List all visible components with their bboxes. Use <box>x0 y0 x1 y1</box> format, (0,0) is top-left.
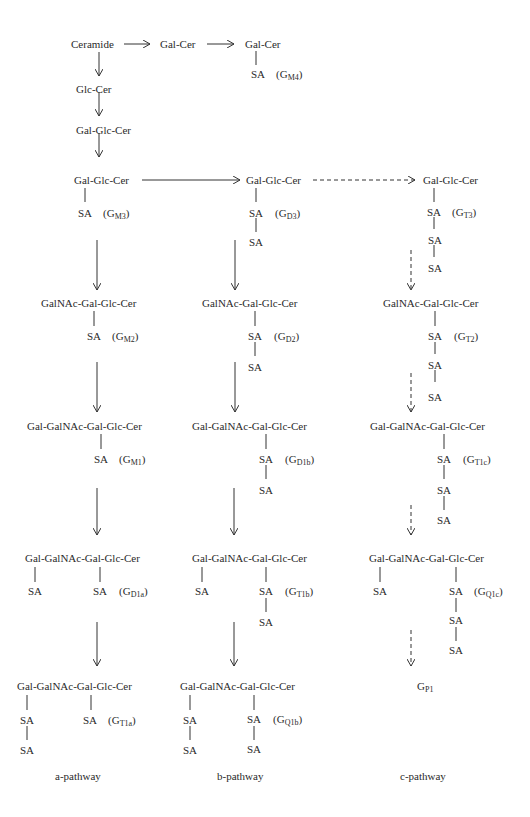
node-gq1c-sa1: SA <box>449 585 463 598</box>
node-gt1c-sa1: SA <box>437 453 451 466</box>
node-gm3-chain: Gal-Glc-Cer <box>74 174 129 187</box>
label-gt1b: (GT1b) <box>285 585 313 598</box>
node-galcer: Gal-Cer <box>160 38 195 51</box>
node-gm2-chain: GalNAc-Gal-Glc-Cer <box>41 297 136 310</box>
node-ceramide: Ceramide <box>71 38 114 51</box>
node-gt1a-sa: SA <box>83 714 97 727</box>
node-gq1c-sa3: SA <box>449 644 463 657</box>
node-gt1a-sa-left1: SA <box>20 714 34 727</box>
label-gd3: (GD3) <box>275 207 300 220</box>
node-gt1b-sa2: SA <box>259 616 273 629</box>
node-gd1a-sa: SA <box>93 585 107 598</box>
pathway-label-a: a-pathway <box>55 770 101 783</box>
node-gt1a-chain: Gal-GalNAc-Gal-Glc-Cer <box>17 680 132 693</box>
label-gt1c: (GT1c) <box>463 453 491 466</box>
node-gq1b-chain: Gal-GalNAc-Gal-Glc-Cer <box>180 680 295 693</box>
label-gd1a: (GD1a) <box>119 585 148 598</box>
node-gq1b-sa-left2: SA <box>183 744 197 757</box>
connector-layer <box>0 0 530 817</box>
node-gt1c-sa3: SA <box>437 514 451 527</box>
label-gq1b: (GQ1b) <box>273 713 302 726</box>
node-gm4-sa: SA <box>251 68 265 81</box>
node-gt1a-sa-left2: SA <box>20 744 34 757</box>
node-gt3-sa1: SA <box>427 206 441 219</box>
node-gd2-chain: GalNAc-Gal-Glc-Cer <box>202 297 297 310</box>
node-gt1b-chain: Gal-GalNAc-Gal-Glc-Cer <box>192 552 307 565</box>
node-galcer-gm4: Gal-Cer <box>245 38 280 51</box>
node-gd3-chain: Gal-Glc-Cer <box>246 174 301 187</box>
node-gt3-sa3: SA <box>428 262 442 275</box>
node-gd1b-sa2: SA <box>259 484 273 497</box>
label-gt1a: (GT1a) <box>108 714 136 727</box>
node-lactosylceramide: Gal-Glc-Cer <box>76 124 131 137</box>
node-gq1b-sa-left1: SA <box>183 714 197 727</box>
node-gd3-sa1: SA <box>249 207 263 220</box>
label-gm2: (GM2) <box>112 330 138 343</box>
node-gq1c-sa-left: SA <box>373 585 387 598</box>
label-gd1b: (GD1b) <box>285 453 314 466</box>
node-glccer: Glc-Cer <box>76 83 111 96</box>
node-gd3-sa2: SA <box>249 236 263 249</box>
node-gm1-chain: Gal-GalNAc-Gal-Glc-Cer <box>27 420 142 433</box>
node-gt2-sa3: SA <box>428 391 442 404</box>
node-gt3-sa2: SA <box>428 234 442 247</box>
node-gd2-sa2: SA <box>248 361 262 374</box>
label-gt2: (GT2) <box>454 330 478 343</box>
node-gd1a-sa-left: SA <box>28 585 42 598</box>
label-gm3: (GM3) <box>103 207 129 220</box>
node-gt3-chain: Gal-Glc-Cer <box>423 174 478 187</box>
node-gd2-sa1: SA <box>248 330 262 343</box>
node-gq1c-chain: Gal-GalNAc-Gal-Glc-Cer <box>369 552 484 565</box>
label-gm4: (GM4) <box>276 68 302 81</box>
node-gt1c-sa2: SA <box>437 484 451 497</box>
label-gd2: (GD2) <box>274 330 299 343</box>
label-gq1c: (GQ1c) <box>474 585 503 598</box>
node-gt1c-chain: Gal-GalNAc-Gal-Glc-Cer <box>370 420 485 433</box>
node-gm1-sa: SA <box>94 453 108 466</box>
node-gt1b-sa-left: SA <box>195 585 209 598</box>
node-gq1c-sa2: SA <box>449 614 463 627</box>
node-gm3-sa: SA <box>78 207 92 220</box>
label-gt3: (GT3) <box>452 206 476 219</box>
node-gq1b-sa1: SA <box>247 713 261 726</box>
label-gm1: (GM1) <box>119 453 145 466</box>
pathway-label-c: c-pathway <box>400 770 446 783</box>
node-gd1b-sa1: SA <box>259 453 273 466</box>
node-gt2-sa1: SA <box>428 330 442 343</box>
node-gm2-sa: SA <box>87 330 101 343</box>
node-gt2-sa2: SA <box>428 359 442 372</box>
node-gd1b-chain: Gal-GalNAc-Gal-Glc-Cer <box>192 420 307 433</box>
label-gp1: GP1 <box>417 680 433 693</box>
node-gq1b-sa2: SA <box>247 743 261 756</box>
node-gt1b-sa1: SA <box>259 585 273 598</box>
node-gt2-chain: GalNAc-Gal-Glc-Cer <box>383 297 478 310</box>
node-gd1a-chain: Gal-GalNAc-Gal-Glc-Cer <box>25 552 140 565</box>
pathway-label-b: b-pathway <box>217 770 263 783</box>
